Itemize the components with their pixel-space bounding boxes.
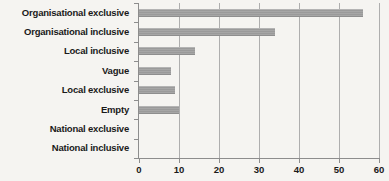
x-tick (299, 159, 300, 163)
x-tick-label: 50 (324, 164, 354, 175)
y-tick (134, 81, 138, 82)
bar (139, 67, 171, 75)
x-tick-label: 60 (364, 164, 389, 175)
x-tick-label: 0 (124, 164, 154, 175)
y-tick (134, 61, 138, 62)
x-tick (139, 159, 140, 163)
x-axis-tick-labels: 0102030405060 (0, 164, 382, 178)
x-tick-label: 10 (164, 164, 194, 175)
y-tick (134, 42, 138, 43)
category-label: Organisational inclusive (0, 27, 129, 37)
gridline-0 (139, 3, 140, 158)
category-axis-labels: Organisational exclusiveOrganisational i… (0, 3, 133, 158)
gridline-30 (259, 3, 260, 158)
x-tick (219, 159, 220, 163)
bar (139, 86, 175, 94)
category-label: National exclusive (0, 124, 129, 134)
x-tick-label: 40 (284, 164, 314, 175)
y-axis-line (138, 3, 139, 159)
gridline-40 (299, 3, 300, 158)
gridline-20 (219, 3, 220, 158)
gridline-60 (379, 3, 380, 158)
category-label: National inclusive (0, 143, 129, 153)
gridline-50 (339, 3, 340, 158)
category-label: Local exclusive (0, 85, 129, 95)
gridline-10 (179, 3, 180, 158)
y-tick (134, 139, 138, 140)
y-tick (134, 3, 138, 4)
x-tick (259, 159, 260, 163)
y-tick (134, 22, 138, 23)
category-label: Local inclusive (0, 46, 129, 56)
category-label: Empty (0, 105, 129, 115)
y-tick (134, 100, 138, 101)
bar (139, 9, 363, 17)
bar (139, 106, 179, 114)
bar (139, 47, 195, 55)
y-tick (134, 158, 138, 159)
x-tick-label: 20 (204, 164, 234, 175)
x-tick-label: 30 (244, 164, 274, 175)
plot-area (139, 3, 379, 158)
x-tick (379, 159, 380, 163)
category-label: Organisational exclusive (0, 8, 129, 18)
y-tick (134, 119, 138, 120)
category-label: Vague (0, 66, 129, 76)
bar (139, 28, 275, 36)
x-tick (179, 159, 180, 163)
x-tick (339, 159, 340, 163)
